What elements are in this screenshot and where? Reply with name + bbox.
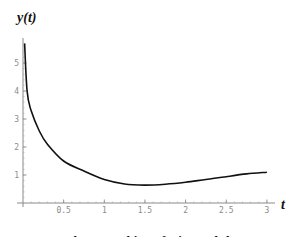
x-tick-label: 0.5: [56, 206, 71, 215]
ticks: 0.511.522.5312345: [14, 46, 269, 215]
x-tick-label: 2: [183, 206, 188, 215]
x-tick-label: 3: [264, 206, 269, 215]
title-part: sin: [173, 233, 189, 237]
title-part: log: [226, 233, 243, 237]
x-axis-label: t: [281, 197, 286, 212]
y-axis-label: y(t): [15, 10, 36, 26]
data-series-line: [25, 43, 267, 185]
x-tick-label: 2.5: [219, 206, 234, 215]
chart-title: The Wronskian ofsinandlog: [0, 217, 301, 237]
x-tick-label: 1.5: [138, 206, 153, 215]
chart-plot: 0.511.522.5312345 y(t) t: [0, 0, 301, 237]
y-tick-label: 3: [14, 115, 19, 124]
title-part: The Wronskian of: [65, 233, 165, 237]
axes: [17, 38, 275, 207]
y-tick-label: 1: [14, 171, 19, 180]
x-tick-label: 1: [102, 206, 107, 215]
y-tick-label: 5: [14, 59, 19, 68]
title-part: and: [197, 233, 218, 237]
y-tick-label: 2: [14, 143, 19, 152]
y-tick-label: 4: [14, 87, 19, 96]
